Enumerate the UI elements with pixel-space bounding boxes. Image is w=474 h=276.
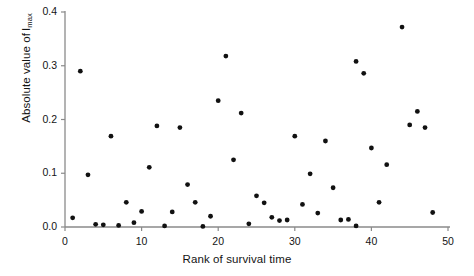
x-tick-label-5: 50 bbox=[436, 235, 460, 247]
data-point bbox=[185, 182, 190, 187]
data-point bbox=[193, 200, 198, 205]
data-point bbox=[216, 98, 221, 103]
data-point bbox=[78, 69, 83, 74]
data-point bbox=[315, 211, 320, 216]
data-point bbox=[354, 224, 359, 229]
data-point bbox=[132, 220, 137, 225]
data-point bbox=[285, 218, 290, 223]
data-point bbox=[93, 222, 98, 227]
data-point bbox=[155, 124, 160, 129]
data-point bbox=[208, 214, 213, 219]
data-point bbox=[338, 218, 343, 223]
data-point bbox=[109, 134, 114, 139]
y-tick-label-4: 0.4 bbox=[31, 5, 57, 17]
data-point bbox=[384, 162, 389, 167]
data-point bbox=[70, 215, 75, 220]
data-point bbox=[430, 210, 435, 215]
x-tick-label-2: 20 bbox=[206, 235, 230, 247]
data-point bbox=[239, 111, 244, 116]
data-point bbox=[86, 172, 91, 177]
data-point bbox=[423, 125, 428, 130]
data-point bbox=[277, 218, 282, 223]
data-point bbox=[308, 171, 313, 176]
data-point bbox=[331, 185, 336, 190]
data-point bbox=[354, 59, 359, 64]
x-tick-label-4: 40 bbox=[359, 235, 383, 247]
data-point bbox=[231, 157, 236, 162]
y-tick-label-1: 0.1 bbox=[31, 166, 57, 178]
data-point bbox=[223, 54, 228, 59]
data-point bbox=[139, 209, 144, 214]
data-point bbox=[407, 122, 412, 127]
data-point bbox=[178, 125, 183, 130]
data-point bbox=[323, 139, 328, 144]
data-point bbox=[116, 223, 121, 228]
data-point bbox=[377, 200, 382, 205]
data-point bbox=[369, 146, 374, 151]
data-point bbox=[147, 165, 152, 170]
data-point bbox=[361, 71, 366, 76]
data-point bbox=[346, 217, 351, 222]
data-point bbox=[400, 25, 405, 30]
scatter-plot-figure: Absolute value ofImax 0.00.10.20.30.4 01… bbox=[0, 0, 474, 276]
data-point bbox=[200, 224, 205, 229]
data-point bbox=[262, 200, 267, 205]
data-points bbox=[70, 25, 435, 229]
x-tick-label-1: 10 bbox=[130, 235, 154, 247]
data-point bbox=[415, 109, 420, 114]
data-point bbox=[246, 221, 251, 226]
x-tick-label-0: 0 bbox=[53, 235, 77, 247]
y-tick-label-2: 0.2 bbox=[31, 113, 57, 125]
x-tick-label-3: 30 bbox=[283, 235, 307, 247]
x-axis-label: Rank of survival time bbox=[0, 253, 474, 265]
data-point bbox=[170, 210, 175, 215]
data-point bbox=[124, 200, 129, 205]
data-point bbox=[292, 134, 297, 139]
y-tick-label-0: 0.0 bbox=[31, 220, 57, 232]
data-point bbox=[254, 193, 259, 198]
data-point bbox=[101, 222, 106, 227]
y-tick-label-3: 0.3 bbox=[31, 59, 57, 71]
data-point bbox=[162, 224, 167, 229]
data-point bbox=[300, 202, 305, 207]
data-point bbox=[269, 215, 274, 220]
